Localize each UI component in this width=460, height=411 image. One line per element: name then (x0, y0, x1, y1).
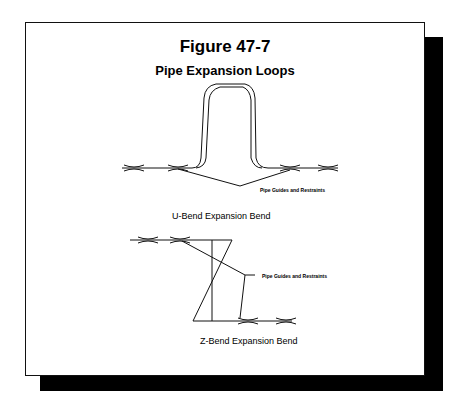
z-bend-guides (138, 237, 296, 324)
u-bend-caption: U-Bend Expansion Bend (172, 211, 271, 221)
u-bend-callout: Pipe Guides and Restraints (260, 187, 325, 193)
u-bend-pipe (122, 84, 338, 168)
pipe-loops-drawing (0, 0, 460, 411)
z-bend-pipe (130, 240, 292, 321)
z-bend-callout: Pipe Guides and Restraints (262, 273, 327, 279)
z-bend-caption: Z-Bend Expansion Bend (200, 336, 298, 346)
u-bend-leader (178, 169, 290, 186)
